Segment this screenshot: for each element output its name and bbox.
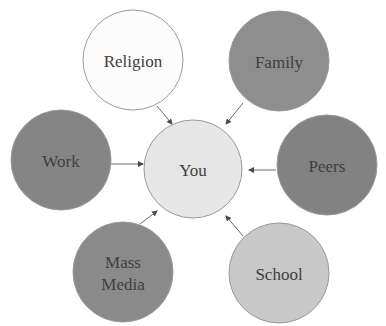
node-school: School — [229, 223, 329, 323]
label-school: School — [255, 265, 303, 284]
node-work: Work — [11, 110, 111, 210]
socialization-diagram: You ReligionFamilyWorkPeersMassMediaScho… — [0, 0, 386, 326]
label-work: Work — [42, 152, 80, 171]
nodes: You ReligionFamilyWorkPeersMassMediaScho… — [11, 10, 377, 323]
label-mass-media-line-2: Media — [101, 275, 145, 294]
node-mass-media: MassMedia — [73, 222, 173, 322]
arrow-mass-media-to-you — [140, 211, 157, 224]
center-label: You — [179, 161, 207, 180]
arrow-religion-to-you — [157, 106, 172, 124]
label-family: Family — [255, 53, 304, 72]
label-mass-media-line-1: Mass — [105, 253, 141, 272]
label-peers: Peers — [309, 157, 346, 176]
arrow-family-to-you — [226, 103, 243, 124]
node-peers: Peers — [277, 115, 377, 215]
node-family: Family — [229, 11, 329, 111]
arrow-school-to-you — [226, 216, 243, 236]
circle-mass-media — [73, 222, 173, 322]
node-religion: Religion — [83, 10, 183, 110]
node-you: You — [144, 120, 242, 218]
label-religion: Religion — [104, 52, 163, 71]
